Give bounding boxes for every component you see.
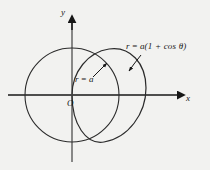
cardioid-label-eq: = [130, 41, 140, 51]
origin-label: O [67, 99, 74, 108]
figure-canvas [0, 0, 210, 170]
cardioid-label-rhs: a(1 + cos θ) [140, 41, 187, 51]
circle-label-eq: = [79, 74, 89, 84]
y-axis-label: y [61, 8, 65, 17]
circle-equation-label: r = a [75, 75, 94, 84]
circle-label-rhs: a [89, 74, 94, 84]
circle-leader-line [93, 63, 107, 77]
cardioid-equation-label: r = a(1 + cos θ) [126, 42, 187, 51]
polar-curves-figure: r = a(1 + cos θ) r = a y x O [0, 0, 210, 170]
x-axis-label: x [186, 94, 190, 103]
